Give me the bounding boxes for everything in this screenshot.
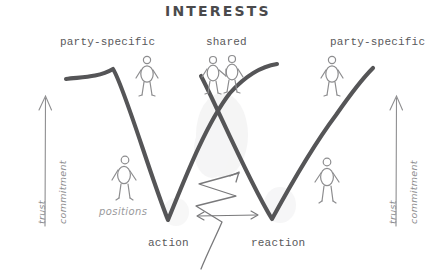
figure-party-left-low — [112, 156, 136, 200]
left-axis-label-trust: trust — [36, 200, 47, 224]
label-party-specific-left: party-specific — [60, 36, 155, 48]
right-axis-label-commitment: commitment — [408, 160, 419, 224]
figure-party-right-low — [315, 158, 339, 203]
label-positions: positions — [99, 206, 147, 217]
smudge-shadow — [163, 93, 296, 226]
zigzag-arrow-icon — [196, 172, 239, 269]
label-reaction: reaction — [251, 237, 305, 249]
page-title: INTERESTS — [165, 3, 271, 19]
right-axis-label-trust: trust — [387, 200, 398, 224]
label-party-specific-right: party-specific — [330, 36, 425, 48]
figure-party-right-top — [321, 56, 343, 96]
label-action: action — [148, 237, 189, 249]
label-shared: shared — [206, 36, 247, 48]
diagram-canvas: INTERESTS party-specific shared party-sp… — [0, 0, 442, 277]
left-axis-label-commitment: commitment — [57, 160, 68, 224]
figure-party-left-top — [136, 56, 158, 96]
